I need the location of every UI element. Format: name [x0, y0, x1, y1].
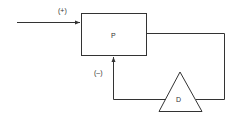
- feedback-arrow: [114, 57, 167, 100]
- feedback-diagram: (+) (–) P D: [0, 0, 234, 122]
- feedback-block-label: D: [176, 96, 181, 103]
- output-path: [147, 34, 225, 100]
- input-sign-label: (+): [58, 7, 67, 15]
- feedback-block-d: [159, 72, 202, 112]
- process-label: P: [111, 32, 116, 39]
- feedback-sign-label: (–): [94, 69, 103, 77]
